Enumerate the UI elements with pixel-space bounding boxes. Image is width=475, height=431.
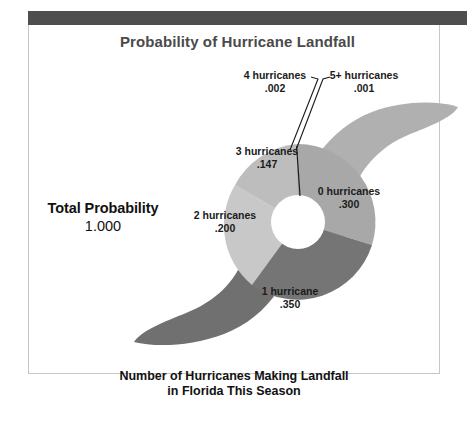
slice-label-2-hurricanes: 2 hurricanes .200 (189, 209, 261, 234)
total-probability-label: Total Probability (33, 200, 173, 216)
total-probability-block: Total Probability 1.000 (33, 200, 173, 234)
slice-label-3-hurricanes: 3 hurricanes .147 (232, 145, 302, 170)
slice-label-0-hurricanes: 0 hurricanes .300 (313, 185, 385, 210)
slice-label-3-name: 3 hurricanes (236, 145, 298, 157)
slice-label-4-hurricanes: 4 hurricanes .002 (237, 69, 313, 94)
slice-label-5plus-hurricanes: 5+ hurricanes .001 (326, 69, 402, 94)
slice-label-1-name: 1 hurricane (262, 285, 319, 297)
slice-label-0-name: 0 hurricanes (318, 185, 380, 197)
total-probability-value: 1.000 (33, 218, 173, 234)
slice-label-3-value: .147 (232, 158, 302, 171)
axis-caption-line1: Number of Hurricanes Making Landfall (28, 369, 440, 384)
axis-caption: Number of Hurricanes Making Landfall in … (28, 369, 440, 399)
slice-label-0-value: .300 (313, 198, 385, 211)
slice-label-1-hurricane: 1 hurricane .350 (254, 285, 326, 310)
slice-label-2-value: .200 (189, 222, 261, 235)
slice-label-1-value: .350 (254, 298, 326, 311)
slice-label-4-name: 4 hurricanes (244, 69, 306, 81)
figure-container: Probability of Hurricane Landfall 4 hur (0, 0, 475, 431)
slice-label-2-name: 2 hurricanes (194, 209, 256, 221)
slice-label-5plus-name: 5+ hurricanes (330, 69, 399, 81)
slice-label-5plus-value: .001 (326, 82, 402, 95)
slice-label-4-value: .002 (237, 82, 313, 95)
axis-caption-line2: in Florida This Season (28, 384, 440, 399)
